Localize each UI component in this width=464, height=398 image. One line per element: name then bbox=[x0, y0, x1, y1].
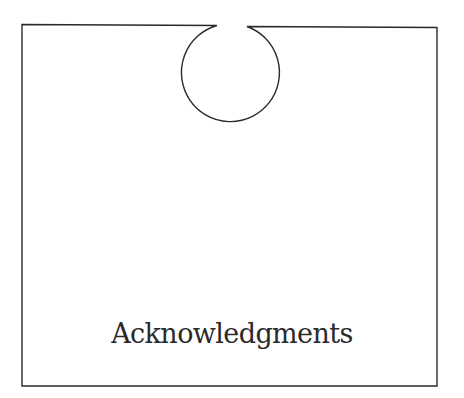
page-title: Acknowledgments bbox=[0, 316, 464, 352]
